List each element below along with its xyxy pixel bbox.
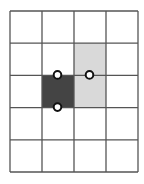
grid-diagram — [0, 0, 144, 184]
point-top-right-icon — [86, 71, 94, 79]
point-bottom-icon — [54, 103, 62, 111]
point-top-left-icon — [54, 71, 62, 79]
grid-lines — [10, 11, 138, 172]
